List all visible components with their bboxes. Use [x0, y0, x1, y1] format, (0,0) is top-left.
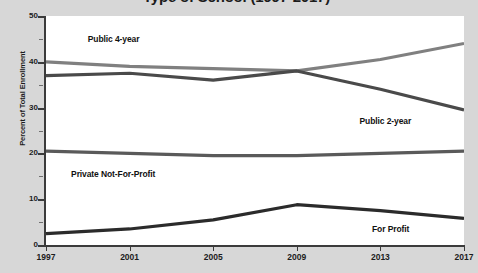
y-tick-label: 0 — [20, 241, 38, 249]
y-axis-title: Percent of Total Enrollment — [18, 29, 27, 169]
x-tick-mark — [213, 245, 214, 251]
x-tick-mark — [130, 245, 131, 251]
x-tick-mark — [46, 245, 47, 251]
x-tick-label: 2001 — [105, 253, 155, 262]
y-tick-label: 30 — [20, 104, 38, 112]
y-tick-label: 10 — [20, 195, 38, 203]
x-tick-label: 2017 — [439, 253, 478, 262]
plot-area: 199720012005200920132017 Public 4-yearPu… — [44, 16, 464, 247]
x-tick-label: 2005 — [188, 253, 238, 262]
series-line — [46, 43, 464, 70]
series-line — [46, 151, 464, 156]
x-tick-mark — [297, 245, 298, 251]
y-minor-tick-mark — [39, 85, 43, 86]
series-label: Public 2-year — [360, 116, 412, 126]
x-tick-mark — [464, 245, 465, 251]
y-minor-tick-mark — [39, 176, 43, 177]
x-tick-label: 2009 — [272, 253, 322, 262]
series-label: For Profit — [372, 224, 409, 234]
y-minor-tick-mark — [39, 222, 43, 223]
y-tick-label: 50 — [20, 12, 38, 20]
plot-lines — [46, 16, 464, 245]
x-tick-label: 1997 — [21, 253, 71, 262]
x-tick-mark — [380, 245, 381, 251]
series-label: Private Not-For-Profit — [71, 169, 155, 179]
y-tick-label: 20 — [20, 149, 38, 157]
y-minor-tick-mark — [39, 39, 43, 40]
series-line — [46, 71, 464, 110]
x-tick-label: 2013 — [355, 253, 405, 262]
y-minor-tick-mark — [39, 131, 43, 132]
series-label: Public 4-year — [88, 34, 140, 44]
y-tick-label: 40 — [20, 58, 38, 66]
chart-title: Type of School (1997-2017) — [0, 0, 473, 5]
